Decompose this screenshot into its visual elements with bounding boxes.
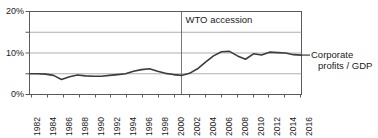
xtick-label-1988: 1988 — [81, 117, 90, 136]
xtick-label-2002: 2002 — [193, 117, 202, 136]
series-label-line2: profits / GDP — [311, 60, 372, 71]
series-label-corporate-profits: Corporate profits / GDP — [311, 49, 372, 71]
ytick-marks — [26, 12, 30, 95]
ytick-label-0: 0% — [0, 90, 24, 99]
xtick-label-1982: 1982 — [33, 117, 42, 136]
chart-figure: 20% 10% 0% 19821984198619881990199219941… — [0, 0, 378, 138]
xtick-label-2010: 2010 — [257, 117, 266, 136]
xtick-label-1992: 1992 — [113, 117, 122, 136]
series-label-line1: Corporate — [311, 49, 353, 60]
xtick-label-2000: 2000 — [177, 117, 186, 136]
xtick-label-1984: 1984 — [49, 117, 58, 136]
ytick-label-10: 10% — [0, 49, 24, 58]
xtick-label-2012: 2012 — [273, 117, 282, 136]
xtick-label-2006: 2006 — [225, 117, 234, 136]
wto-accession-label: WTO accession — [186, 15, 253, 25]
xtick-label-2004: 2004 — [209, 117, 218, 136]
xtick-label-1986: 1986 — [65, 117, 74, 136]
xtick-label-1994: 1994 — [129, 117, 138, 136]
xtick-label-2016: 2016 — [305, 117, 314, 136]
ytick-label-20: 20% — [0, 7, 24, 16]
xtick-label-1998: 1998 — [161, 117, 170, 136]
xtick-label-2014: 2014 — [289, 117, 298, 136]
xtick-label-1990: 1990 — [97, 117, 106, 136]
xtick-label-1996: 1996 — [145, 117, 154, 136]
xtick-label-2008: 2008 — [241, 117, 250, 136]
